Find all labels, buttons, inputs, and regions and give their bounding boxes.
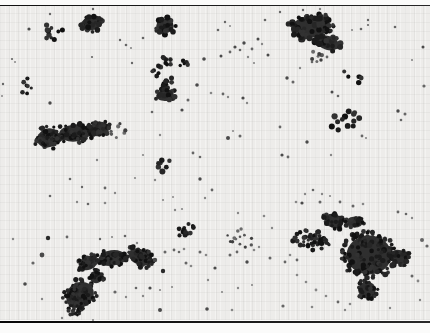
single-cell	[204, 197, 206, 199]
cell-cluster-bottom-right-main	[363, 270, 368, 275]
single-cell	[178, 251, 181, 254]
cell-cluster-chain-offshoot	[186, 62, 190, 66]
single-cell	[422, 84, 425, 87]
single-cell	[159, 134, 161, 136]
cell-cluster-bottom-left-lobe	[66, 288, 70, 292]
single-cell	[360, 28, 363, 31]
single-cell	[190, 265, 193, 268]
cell-cluster-top-cluster-a	[84, 15, 88, 19]
cell-cluster-left-elongated-west	[38, 139, 42, 143]
single-cell	[420, 238, 424, 242]
cell-cluster-top-right-trail	[319, 58, 322, 61]
cell-cluster-right-mid-group	[346, 108, 352, 114]
cell-cluster-lower-center-group	[183, 230, 188, 235]
single-cell	[239, 49, 242, 52]
cluster-hole	[334, 234, 344, 244]
cell-cluster-bottom-right-main	[371, 275, 375, 279]
cell-cluster-bottom-right-west-band	[315, 237, 319, 241]
cell-cluster-bottom-right-west-band	[302, 235, 307, 240]
cell-cluster-right-mid-group	[336, 127, 341, 132]
single-cell	[396, 109, 399, 112]
cell-cluster-bottom-right-main	[376, 244, 380, 248]
cell-cluster-top-cluster-b	[157, 29, 163, 35]
micrograph-figure	[0, 0, 430, 333]
single-cell	[253, 249, 256, 252]
single-cell	[31, 261, 34, 264]
cell-cluster-bottom-right-main	[390, 243, 394, 247]
cell-cluster-bottom-right-tail	[357, 294, 361, 298]
cell-cluster-bottom-right-main	[383, 237, 387, 241]
cell-cluster-left-elongated-west	[40, 126, 44, 130]
single-cell	[389, 307, 391, 309]
cell-cluster-right-upper-arc	[346, 75, 350, 79]
cell-cluster-left-small-group	[21, 80, 26, 85]
single-cell	[81, 186, 83, 188]
cell-cluster-lower-center-loose	[244, 246, 247, 249]
cell-cluster-right-mid-group	[335, 119, 340, 124]
cell-cluster-top-right-main	[323, 13, 327, 17]
single-cell	[124, 235, 127, 238]
single-cell	[224, 21, 226, 23]
cell-cluster-right-mid-group	[345, 123, 351, 129]
cell-cluster-lower-center-loose	[239, 243, 242, 246]
single-cell	[210, 92, 213, 95]
cell-cluster-chain-top	[164, 57, 168, 61]
single-cell	[422, 46, 425, 49]
single-cell	[280, 153, 283, 156]
cell-cluster-bottom-left-arm-east	[131, 257, 136, 262]
cell-cluster-bottom-right-west-band	[324, 241, 328, 245]
cell-cluster-right-mid-group	[340, 117, 345, 122]
cell-cluster-left-elongated-east	[87, 123, 90, 126]
cell-cluster-bottom-left-lobe	[74, 282, 78, 286]
cell-cluster-chain-mid-upper	[156, 64, 161, 69]
single-cell	[49, 13, 51, 15]
single-cell	[180, 108, 183, 111]
cell-cluster-bottom-right-west-band	[312, 248, 316, 252]
single-cell	[246, 102, 248, 104]
single-cell	[148, 286, 151, 289]
cell-cluster-bottom-right-main	[369, 256, 374, 261]
cell-cluster-top-right-main	[310, 29, 315, 34]
cell-cluster-lower-center-loose	[243, 234, 246, 237]
cell-cluster-bottom-left-lobe	[67, 301, 71, 305]
cell-cluster-bottom-left-tip	[71, 309, 75, 313]
cell-cluster-left-elongated-mid	[72, 133, 77, 138]
cell-cluster-bottom-left-lobe	[80, 302, 83, 305]
cell-cluster-left-elongated-mid	[77, 131, 81, 135]
single-cell	[153, 258, 157, 262]
single-cell	[319, 8, 321, 10]
single-cell	[104, 187, 107, 190]
cell-cluster-bottom-right-main	[382, 272, 388, 278]
cell-cluster-top-right-main	[290, 22, 294, 26]
single-cell	[104, 202, 107, 205]
single-cell	[245, 260, 248, 263]
cell-cluster-left-elongated-west	[43, 130, 47, 134]
cell-cluster-bottom-right-main	[359, 256, 362, 259]
cell-cluster-top-right-main	[325, 27, 330, 32]
single-cell	[367, 19, 369, 21]
single-cell	[305, 140, 308, 143]
cell-cluster-bottom-right-east-arm	[407, 255, 411, 259]
single-cell	[329, 195, 331, 197]
cell-cluster-right-mid-group	[351, 118, 356, 123]
single-cell	[257, 38, 260, 41]
single-cell	[305, 281, 308, 284]
cell-cluster-top-cluster-b	[174, 24, 178, 28]
single-cell	[400, 119, 403, 122]
cell-cluster-top-cluster-a	[91, 14, 97, 20]
cell-cluster-bottom-right-east-arm	[402, 249, 406, 253]
single-cell	[229, 254, 232, 257]
cell-cluster-bottom-right-east-arm	[392, 246, 396, 250]
cell-cluster-left-elongated-west	[52, 126, 55, 129]
cell-cluster-top-right-main	[291, 32, 297, 38]
single-cell	[205, 254, 208, 257]
single-cell	[23, 282, 27, 286]
cell-cluster-bottom-right-top-bump	[349, 217, 354, 222]
single-cell	[199, 251, 202, 254]
cell-cluster-chain-top	[168, 57, 173, 62]
single-cell	[181, 208, 183, 210]
single-cell	[330, 154, 332, 156]
cell-cluster-bottom-left-tip	[79, 306, 82, 309]
cell-cluster-lower-center-loose	[226, 234, 228, 236]
single-cell	[135, 287, 138, 290]
